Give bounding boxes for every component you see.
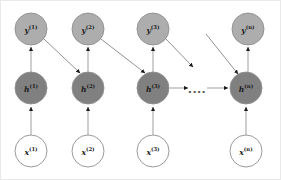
node-y3[interactable]: y(3) (137, 13, 169, 45)
edge-dangling-hn (206, 34, 238, 74)
node-xn[interactable]: x(n) (230, 135, 262, 167)
node-y2[interactable]: y(2) (72, 13, 104, 45)
edge-y1-h2 (44, 39, 80, 73)
node-h3[interactable]: h(3) (137, 72, 169, 104)
node-y1[interactable]: y(1) (15, 13, 47, 45)
input-to-hidden-edges (31, 107, 246, 135)
node-h1[interactable]: h(1) (15, 72, 47, 104)
node-yn[interactable]: y(n) (232, 13, 264, 45)
edge-y3-dangling (166, 39, 193, 67)
node-x3[interactable]: x(3) (137, 135, 169, 167)
output-layer: y(1) y(2) y(3) y(n) (15, 13, 264, 45)
node-h2[interactable]: h(2) (72, 72, 104, 104)
input-layer: x(1) x(2) x(3) x(n) (15, 135, 262, 167)
node-x1[interactable]: x(1) (15, 135, 47, 167)
node-hn[interactable]: h(n) (230, 72, 262, 104)
rnn-unfolded-diagram: .... x(1) x(2) x(3) x(n) (0, 0, 281, 180)
node-x2[interactable]: x(2) (72, 135, 104, 167)
edge-y2-h3 (101, 39, 145, 73)
diagram-canvas: .... x(1) x(2) x(3) x(n) (1, 1, 281, 180)
sequence-ellipsis: .... (188, 83, 206, 96)
